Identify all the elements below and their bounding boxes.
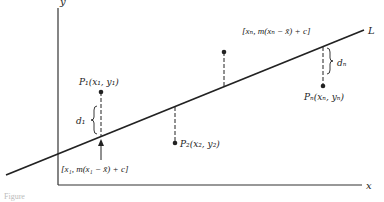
regression-diagram: y x L P₁(x₁, y₁) d₁ [x₁, m(x₁ − x̄) + c]…: [0, 0, 384, 202]
regression-line: [6, 30, 364, 175]
point-pn-label: Pₙ(xₙ, yₙ): [303, 92, 344, 102]
point-p2: [173, 141, 178, 146]
point-p1-label: P₁(x₁, y₁): [78, 77, 119, 87]
point-p2-label: P₂(x₂, y₂): [179, 139, 220, 149]
line-label: L: [367, 25, 375, 36]
point-p3: [222, 50, 227, 55]
point-p1: [99, 90, 104, 95]
y-axis-label: y: [59, 0, 66, 7]
figure-caption: Figure: [4, 192, 25, 201]
d1-label: d₁: [76, 116, 85, 126]
line-point-1-label: [x₁, m(x₁ − x̄) + c]: [61, 164, 129, 174]
line-point-n-label: [xₙ, m(xₙ − x̄) + c]: [242, 26, 311, 36]
x-axis-label: x: [366, 180, 372, 191]
brace-d1: [91, 106, 97, 134]
point-pn: [321, 84, 326, 89]
brace-dn: [327, 48, 333, 74]
arrow-up-icon: [98, 139, 104, 146]
dn-label: dₙ: [337, 58, 347, 68]
